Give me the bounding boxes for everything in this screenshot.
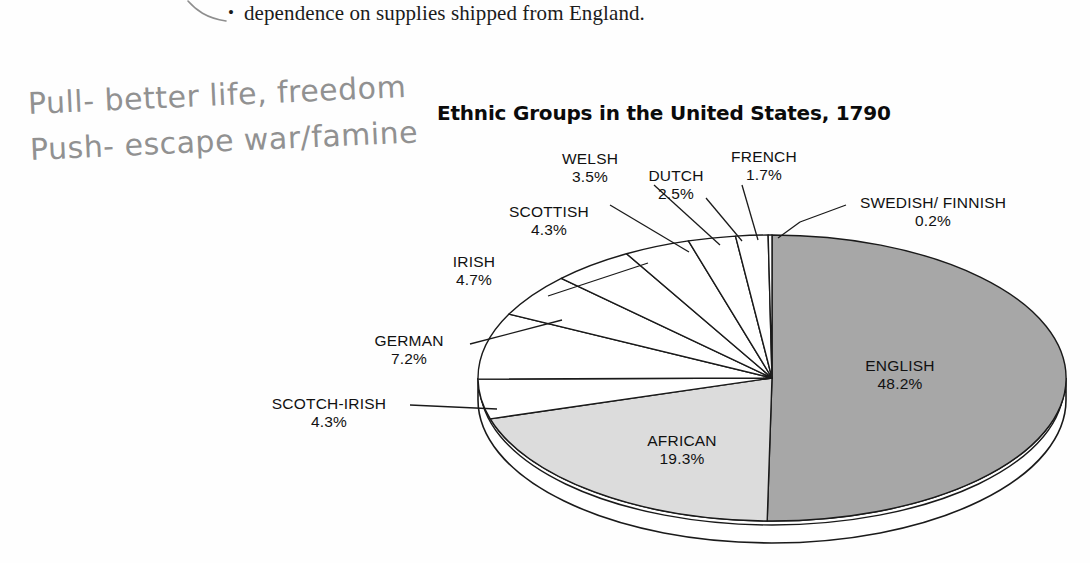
pie-label-dutch-value: 2.5% (636, 185, 716, 203)
pie-label-scottish-value: 4.3% (493, 221, 605, 239)
pie-label-swedish-finnish-value: 0.2% (843, 212, 1023, 230)
pie-label-scotch-irish-value: 4.3% (254, 413, 404, 431)
pie-label-german-value: 7.2% (357, 350, 461, 368)
leader-line-french (742, 185, 758, 240)
pie-label-irish: IRISH 4.7% (434, 253, 514, 290)
pie-label-scotch-irish-name: SCOTCH-IRISH (272, 395, 386, 412)
pie-label-welsh: WELSH 3.5% (542, 150, 638, 187)
pie-chart (0, 0, 1090, 563)
pie-label-african: AFRICAN 19.3% (627, 432, 737, 469)
pie-label-scotch-irish: SCOTCH-IRISH 4.3% (254, 395, 404, 432)
pie-label-irish-name: IRISH (453, 253, 495, 270)
pie-label-swedish-finnish: SWEDISH/ FINNISH 0.2% (843, 194, 1023, 231)
pie-label-welsh-name: WELSH (562, 150, 618, 167)
pie-slice-group (478, 235, 1066, 521)
pie-label-welsh-value: 3.5% (542, 168, 638, 186)
pie-label-scottish-name: SCOTTISH (509, 203, 589, 220)
pie-label-swedish-finnish-name: SWEDISH/ FINNISH (860, 194, 1006, 211)
pie-label-english-name: ENGLISH (865, 357, 934, 374)
pie-label-african-name: AFRICAN (647, 432, 716, 449)
pie-label-irish-value: 4.7% (434, 271, 514, 289)
leader-line-dutch (706, 198, 742, 241)
pie-label-scottish: SCOTTISH 4.3% (493, 203, 605, 240)
page-canvas: •dependence on supplies shipped from Eng… (0, 0, 1090, 563)
pie-label-french-value: 1.7% (718, 166, 810, 184)
pie-label-african-value: 19.3% (627, 450, 737, 468)
pie-label-english-value: 48.2% (845, 375, 955, 393)
pie-label-german: GERMAN 7.2% (357, 332, 461, 369)
leader-line-scottish (610, 205, 689, 252)
leader-line-swedish-finnish-2 (800, 205, 846, 222)
pie-label-french-name: FRENCH (731, 148, 797, 165)
pie-label-english: ENGLISH 48.2% (845, 357, 955, 394)
pie-label-dutch: DUTCH 2.5% (636, 167, 716, 204)
pie-label-french: FRENCH 1.7% (718, 148, 810, 185)
pie-label-german-name: GERMAN (374, 332, 443, 349)
pie-label-dutch-name: DUTCH (648, 167, 703, 184)
